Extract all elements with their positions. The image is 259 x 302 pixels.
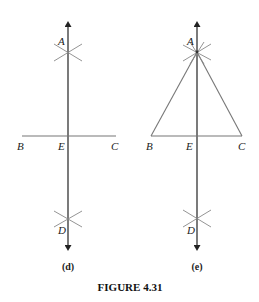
label-d: D — [186, 224, 195, 236]
figure-caption: FIGURE 4.31 — [98, 281, 163, 293]
label-c: C — [238, 140, 246, 152]
label-d: D — [57, 224, 66, 236]
label-b: B — [17, 140, 24, 152]
label-c: C — [111, 140, 119, 152]
panel-d-label: (d) — [62, 261, 74, 273]
side-ac — [197, 52, 242, 136]
panel-e-label: (e) — [191, 261, 202, 273]
point-a — [196, 51, 199, 54]
label-e: E — [185, 140, 193, 152]
label-b: B — [146, 140, 153, 152]
label-a: A — [57, 35, 65, 47]
figure-canvas: A B E C D (d) A B E C D (e) FIGURE 4.31 — [0, 0, 259, 302]
panel-e: A B E C D (e) — [146, 24, 246, 273]
side-ab — [151, 52, 197, 136]
panel-d: A B E C D (d) — [17, 24, 119, 273]
label-e: E — [57, 140, 65, 152]
label-a: A — [186, 35, 194, 47]
